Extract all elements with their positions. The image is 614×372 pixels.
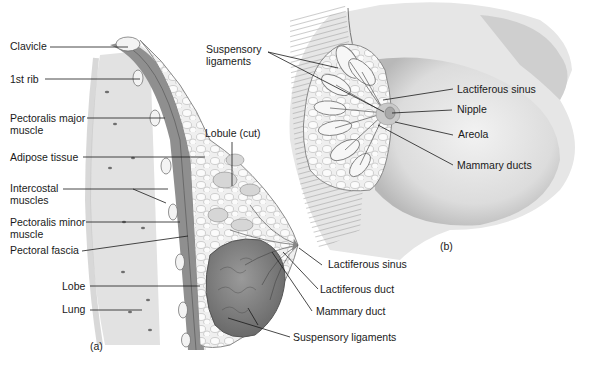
label-lactiferous-duct: Lactiferous duct <box>320 283 394 295</box>
panel-a-tag: (a) <box>90 340 103 352</box>
label-lobule-cut: Lobule (cut) <box>205 127 260 139</box>
panel-a-drawing <box>88 37 298 350</box>
label-pectoralis-minor-line1: Pectoralis minor <box>10 216 85 228</box>
label-intercostal-line2: muscles <box>10 194 58 206</box>
panel-b-tag: (b) <box>440 240 453 252</box>
breast-anatomy-illustration <box>0 0 614 372</box>
label-lactiferous-sinus-a: Lactiferous sinus <box>328 258 407 270</box>
label-intercostal-muscles: Intercostal muscles <box>10 182 58 206</box>
label-suspensory-line1: Suspensory <box>206 43 261 55</box>
label-areola: Areola <box>458 128 488 140</box>
label-intercostal-line1: Intercostal <box>10 182 58 194</box>
label-suspensory-ligaments-a: Suspensory ligaments <box>293 331 396 343</box>
label-mammary-ducts: Mammary ducts <box>457 159 532 171</box>
label-pectoralis-major-line1: Pectoralis major <box>10 112 85 124</box>
label-nipple: Nipple <box>457 103 487 115</box>
panel-b-drawing <box>290 2 576 260</box>
label-pectoral-fascia: Pectoral fascia <box>10 244 79 256</box>
label-lobe: Lobe <box>62 280 85 292</box>
label-pectoralis-minor: Pectoralis minor muscle <box>10 216 85 240</box>
label-suspensory-line2: ligaments <box>206 55 261 67</box>
label-pectoralis-major: Pectoralis major muscle <box>10 112 85 136</box>
label-pectoralis-major-line2: muscle <box>10 124 85 136</box>
label-adipose-tissue: Adipose tissue <box>10 151 78 163</box>
label-lactiferous-sinus-b: Lactiferous sinus <box>457 83 536 95</box>
label-suspensory-ligaments-b: Suspensory ligaments <box>206 43 261 67</box>
label-lung: Lung <box>62 303 85 315</box>
label-first-rib: 1st rib <box>10 73 39 85</box>
label-pectoralis-minor-line2: muscle <box>10 228 85 240</box>
label-clavicle: Clavicle <box>10 40 47 52</box>
label-mammary-duct: Mammary duct <box>316 305 385 317</box>
